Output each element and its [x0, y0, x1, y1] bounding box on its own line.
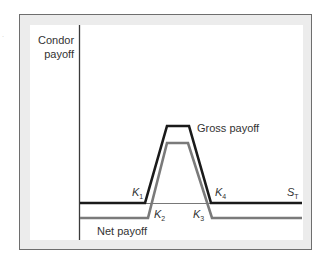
- gross-payoff-line: [80, 126, 302, 203]
- y-axis-label-line1: Condor: [38, 33, 74, 47]
- y-axis-label-line2: payoff: [38, 47, 74, 61]
- y-axis-label: Condor payoff: [38, 33, 74, 61]
- net-payoff-line: [80, 143, 302, 218]
- strike-k3-sub: 3: [200, 215, 204, 222]
- strike-k2-label: K2: [154, 209, 165, 222]
- net-payoff-label: Net payoff: [97, 226, 147, 237]
- x-axis-label-sub: T: [294, 193, 298, 200]
- strike-k1-label: K1: [132, 187, 143, 200]
- x-axis-label-st: ST: [287, 187, 299, 200]
- strike-k4-label: K4: [215, 187, 226, 200]
- gross-payoff-label: Gross payoff: [197, 123, 259, 134]
- strike-k4-sub: 4: [222, 193, 226, 200]
- strike-k2-sub: 2: [161, 215, 165, 222]
- strike-k3-label: K3: [193, 209, 204, 222]
- strike-k1-sub: 1: [139, 193, 143, 200]
